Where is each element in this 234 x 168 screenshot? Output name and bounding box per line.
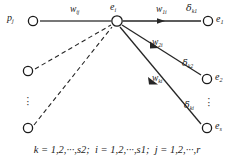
node-e1: [203, 16, 212, 25]
node-e2: [202, 74, 211, 83]
node-input-mid: [23, 66, 32, 75]
node-label-pj: pj: [7, 13, 14, 24]
edge-input-mid-to-hub: [35, 25, 111, 69]
ellipsis-left-vertical: · · ·: [26, 96, 30, 107]
caption-i-range: i = 1,2,···,s1;: [95, 144, 149, 155]
node-label-es: es: [215, 121, 222, 132]
edge-label-w-ki: wki: [152, 74, 162, 85]
node-es: [202, 123, 211, 132]
edge-label-w-2i: w2i: [152, 38, 163, 49]
arrowhead-w1i-icon: [157, 18, 165, 24]
edge-label-delta-k2: δk2: [182, 58, 193, 70]
caption-k-range: k = 1,2,···,s2;: [34, 144, 90, 155]
node-input-low: [23, 123, 32, 132]
edge-label-w-1i: w1i: [156, 5, 167, 16]
graph-edges-and-nodes: [0, 0, 234, 168]
edge-label-delta-ki: δki: [184, 100, 194, 112]
diagram-canvas: pj ei e1 e2 es wij w1i w2i wki δk1 δk2 δ…: [0, 0, 234, 168]
edge-input-low-to-hub: [34, 27, 112, 125]
caption-j-range: j = 1,2,···,r: [155, 144, 201, 155]
edge-label-w-ij: wij: [70, 5, 79, 16]
node-hub-ei: [112, 16, 122, 26]
node-pj: [28, 16, 37, 25]
node-label-e1: e1: [216, 14, 223, 25]
index-range-caption: k = 1,2,···,s2; i = 1,2,···,s1; j = 1,2,…: [0, 144, 234, 155]
edge-label-delta-k1: δk1: [186, 3, 197, 15]
node-label-hub-ei: ei: [110, 2, 116, 13]
node-label-e2: e2: [215, 72, 222, 83]
ellipsis-right-vertical: · · ·: [207, 97, 211, 108]
